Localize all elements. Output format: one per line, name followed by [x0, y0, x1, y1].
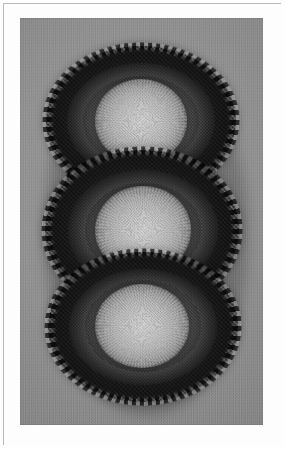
- rug-lobe-bottom: [47, 251, 239, 403]
- rug-name: three-lobed braided rug: [0, 0, 1, 1]
- photo-caption: Braided rug, three-lobed cloverleaf form…: [0, 0, 1, 1]
- rug-medallion-bottom: [94, 283, 189, 368]
- page-title: Braided Rug: [0, 0, 1, 1]
- braided-rug: [45, 45, 239, 399]
- braid-texture: [94, 283, 189, 368]
- photograph: [20, 18, 263, 425]
- page-canvas: Braided rug, three-lobed cloverleaf form…: [0, 0, 285, 449]
